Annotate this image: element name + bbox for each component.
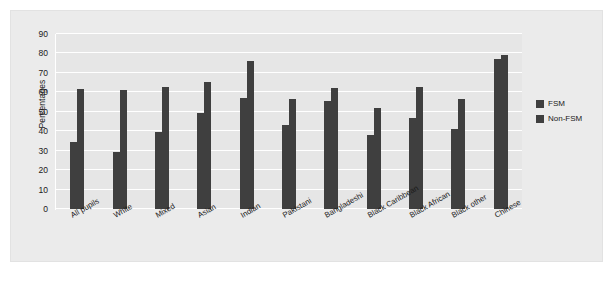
y-tick-label: 0: [43, 204, 48, 214]
y-tick-label: 60: [39, 87, 48, 97]
bar-group: [70, 34, 84, 209]
legend-item: FSM: [536, 99, 600, 108]
bar-non-fsm: [374, 108, 381, 209]
y-tick-label: 20: [39, 165, 48, 175]
y-tick-label: 70: [39, 68, 48, 78]
bar-group: [197, 34, 211, 209]
chart-canvas: Percentages 0102030405060708090 All pupi…: [10, 10, 603, 262]
legend-label: Non-FSM: [548, 114, 582, 123]
bar-fsm: [240, 98, 247, 209]
legend-item: Non-FSM: [536, 114, 600, 123]
legend-label: FSM: [548, 99, 565, 108]
bar-group: [282, 34, 296, 209]
bar-group: [240, 34, 254, 209]
bar-non-fsm: [289, 99, 296, 209]
bar-fsm: [494, 59, 501, 209]
bar-chart-figure: Percentages 0102030405060708090 All pupi…: [0, 0, 613, 291]
y-tick-label: 50: [39, 107, 48, 117]
y-tick-label: 10: [39, 185, 48, 195]
bar-non-fsm: [501, 55, 508, 209]
bar-group: [113, 34, 127, 209]
x-axis-tick-labels: All pupilsWhiteMixedAsianIndianPakistani…: [56, 210, 522, 262]
bar-non-fsm: [162, 87, 169, 210]
bar-non-fsm: [331, 88, 338, 209]
y-tick-label: 40: [39, 126, 48, 136]
bar-group: [155, 34, 169, 209]
legend-swatch-icon: [536, 115, 544, 123]
y-tick-label: 30: [39, 146, 48, 156]
bar-non-fsm: [247, 61, 254, 209]
bar-fsm: [282, 125, 289, 209]
y-axis-tick-labels: 0102030405060708090: [11, 34, 52, 209]
plot-area: [56, 34, 522, 209]
bar-fsm: [324, 101, 331, 209]
bar-fsm: [70, 142, 77, 209]
bar-fsm: [367, 135, 374, 209]
chart-legend: FSMNon-FSM: [536, 99, 600, 129]
bar-non-fsm: [458, 99, 465, 209]
bar-group: [451, 34, 465, 209]
bar-non-fsm: [204, 82, 211, 209]
bar-non-fsm: [77, 89, 84, 209]
bar-fsm: [197, 113, 204, 209]
y-tick-label: 80: [39, 48, 48, 58]
bar-group: [324, 34, 338, 209]
bar-fsm: [155, 132, 162, 209]
y-tick-label: 90: [39, 29, 48, 39]
bar-fsm: [113, 152, 120, 209]
bar-non-fsm: [120, 90, 127, 209]
legend-swatch-icon: [536, 100, 544, 108]
bar-group: [494, 34, 508, 209]
bar-fsm: [451, 129, 458, 209]
bar-group: [409, 34, 423, 209]
bar-group: [367, 34, 381, 209]
